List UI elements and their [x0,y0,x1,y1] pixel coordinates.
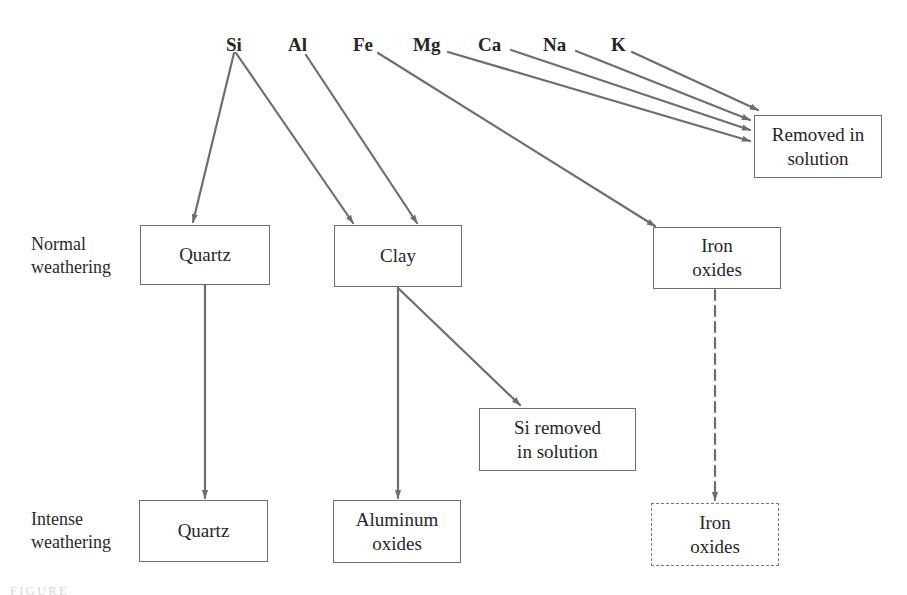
arrow-clay-to-si-removed [398,288,520,405]
element-label-mg: Mg [413,35,440,54]
box-aluminum-oxides-text: Aluminum oxides [356,508,438,556]
box-si-removed-in-solution: Si removed in solution [479,408,636,471]
arrow-si-to-quartz [193,53,234,222]
element-label-fe: Fe [353,35,373,54]
box-clay-text: Clay [380,244,416,268]
row-label-intense-weathering: Intense weathering [31,508,111,554]
box-clay: Clay [334,225,462,287]
box-iron-oxides-intense: Iron oxides [651,503,779,566]
box-quartz-intense: Quartz [139,500,268,562]
box-removed-in-solution-text: Removed in solution [772,123,864,171]
box-quartz-normal: Quartz [140,225,270,285]
box-si-removed-text: Si removed in solution [514,416,601,464]
arrow-fe-to-iron-oxides [378,53,655,226]
box-iron-oxides-normal-text: Iron oxides [692,234,742,282]
element-label-na: Na [543,35,566,54]
element-label-si: Si [226,35,242,54]
arrow-na-to-removed [576,51,750,120]
box-removed-in-solution: Removed in solution [754,115,882,178]
box-quartz-normal-text: Quartz [179,243,231,267]
row-label-normal-weathering: Normal weathering [31,233,111,279]
box-quartz-intense-text: Quartz [178,519,230,543]
arrow-mg-to-removed [448,52,750,141]
box-iron-oxides-normal: Iron oxides [653,227,781,289]
box-aluminum-oxides: Aluminum oxides [333,500,461,563]
arrow-al-to-clay [306,55,417,223]
element-label-k: K [611,35,626,54]
element-label-al: Al [288,35,307,54]
box-iron-oxides-intense-text: Iron oxides [690,511,740,559]
figure-caption-fragment: FIGURE [10,583,430,595]
arrow-si-to-clay [236,53,353,223]
element-label-ca: Ca [478,35,501,54]
